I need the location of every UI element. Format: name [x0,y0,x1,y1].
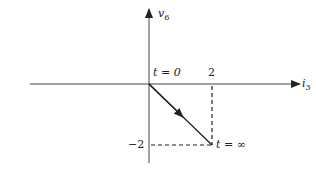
x-tick-label: 2 [208,66,215,79]
horizontal-axis-label: i3 [302,77,311,92]
vertical-axis-label: v6 [158,7,169,22]
phase-plane-diagram [0,0,316,172]
y-tick-label: −2 [128,138,144,151]
trajectory-arrow [149,84,183,117]
start-label: t = 0 [153,66,181,79]
end-label: t = ∞ [216,138,246,151]
